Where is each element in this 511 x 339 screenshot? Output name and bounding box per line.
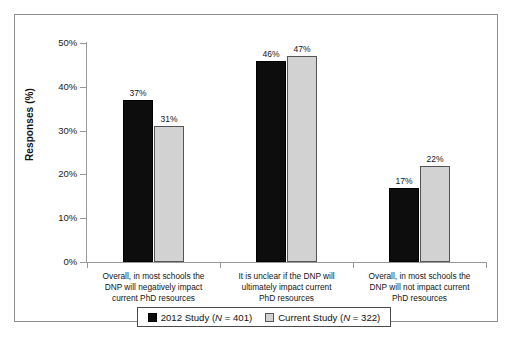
legend-entry-1[interactable]: Current Study (N = 322)	[265, 312, 380, 323]
bar-group: 37%31%	[123, 43, 184, 262]
y-axis-tick-label: 30%	[15, 125, 77, 136]
category-label-line: It is unclear if the DNP will	[220, 271, 353, 282]
y-axis-tick-label: 20%	[15, 168, 77, 179]
x-axis-tick	[353, 262, 354, 268]
figure-frame: Responses (%) 0%10%20%30%40%50% 37%31%46…	[14, 14, 498, 322]
legend-entry-0[interactable]: 2012 Study (N = 401)	[148, 312, 252, 323]
bar-value-label: 22%	[414, 154, 456, 164]
x-axis-category-label: Overall, in most schools theDNP will neg…	[87, 271, 220, 304]
y-axis-tick	[80, 262, 87, 263]
y-axis-tick-label-wrap: 40%	[15, 81, 77, 93]
bar-0-1[interactable]	[256, 61, 286, 262]
legend-swatch-icon	[265, 313, 274, 322]
y-axis-tick-label-wrap: 20%	[15, 168, 77, 180]
legend-label: Current Study (N = 322)	[278, 312, 380, 323]
y-axis-tick-label: 40%	[15, 81, 77, 92]
x-axis-tick	[486, 262, 487, 268]
bar-0-2[interactable]	[389, 188, 419, 262]
x-axis-tick	[87, 262, 88, 268]
x-axis-line	[86, 262, 487, 263]
category-label-line: DNP will negatively impact	[87, 282, 220, 293]
bar-1-1[interactable]	[287, 56, 317, 262]
bar-group: 17%22%	[389, 43, 450, 262]
y-axis-tick	[80, 218, 87, 219]
x-axis-tick	[220, 262, 221, 268]
category-label-line: Overall, in most schools the	[353, 271, 486, 282]
legend-label: 2012 Study (N = 401)	[161, 312, 252, 323]
category-label-line: Overall, in most schools the	[87, 271, 220, 282]
legend-swatch-icon	[148, 313, 157, 322]
y-axis-tick	[80, 131, 87, 132]
chart-legend: 2012 Study (N = 401)Current Study (N = 3…	[137, 307, 391, 327]
x-axis-category-label: It is unclear if the DNP willultimately …	[220, 271, 353, 304]
category-label-line: ultimately impact current	[220, 282, 353, 293]
y-axis-tick-label: 0%	[15, 256, 77, 267]
y-axis-tick	[80, 174, 87, 175]
bar-value-label: 31%	[148, 114, 190, 124]
bar-group: 46%47%	[256, 43, 317, 262]
category-label-line: current PhD resources	[87, 293, 220, 304]
category-label-line: PhD resources	[353, 293, 486, 304]
plot-area: 37%31%46%47%17%22%	[87, 43, 486, 262]
y-axis-tick-label-wrap: 0%	[15, 256, 77, 268]
category-label-line: PhD resources	[220, 293, 353, 304]
bar-value-label: 17%	[383, 176, 425, 186]
bar-0-0[interactable]	[123, 100, 153, 262]
y-axis-tick	[80, 43, 87, 44]
y-axis-tick-label-wrap: 50%	[15, 37, 77, 49]
category-label-line: DNP will not impact current	[353, 282, 486, 293]
bar-value-label: 47%	[281, 44, 323, 54]
bar-1-0[interactable]	[154, 126, 184, 262]
y-axis-tick-label-wrap: 30%	[15, 125, 77, 137]
y-axis-tick-label: 50%	[15, 37, 77, 48]
bar-value-label: 37%	[117, 88, 159, 98]
y-axis-tick	[80, 87, 87, 88]
bar-1-2[interactable]	[420, 166, 450, 262]
y-axis-tick-label: 10%	[15, 212, 77, 223]
x-axis-category-label: Overall, in most schools theDNP will not…	[353, 271, 486, 304]
y-axis-tick-label-wrap: 10%	[15, 212, 77, 224]
